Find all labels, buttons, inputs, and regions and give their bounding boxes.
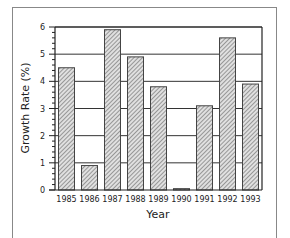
x-tick-label: 1987 (102, 195, 122, 204)
x-tick-label: 1986 (79, 195, 99, 204)
x-tick-label: 1992 (217, 195, 237, 204)
bar-chart: 0123456 19851986198719881989199019911992… (0, 0, 290, 238)
bar-1989 (151, 87, 167, 190)
bar-1991 (197, 106, 213, 190)
y-axis-title: Growth Rate (%) (19, 62, 32, 153)
y-tick-label: 5 (40, 50, 45, 59)
bar-1986 (82, 166, 98, 190)
bar-1992 (220, 38, 236, 190)
y-tick-label: 4 (40, 77, 45, 86)
y-tick-label: 6 (40, 23, 45, 32)
x-tick-label: 1991 (194, 195, 214, 204)
y-tick-label: 1 (40, 159, 45, 168)
bar-1993 (243, 84, 259, 190)
x-tick-label: 1993 (240, 195, 260, 204)
bar-1987 (105, 30, 121, 190)
x-tick-label: 1988 (125, 195, 145, 204)
y-tick-label: 3 (40, 105, 45, 114)
y-axis-ticks: 0123456 (40, 23, 55, 195)
y-tick-label: 2 (40, 132, 45, 141)
bar-1985 (59, 68, 75, 190)
y-tick-label: 0 (40, 186, 45, 195)
x-tick-label: 1985 (56, 195, 76, 204)
x-axis-ticks: 198519861987198819891990199119921993 (56, 195, 260, 204)
bar-1988 (128, 57, 144, 190)
x-axis-title: Year (145, 208, 170, 221)
x-tick-label: 1989 (148, 195, 168, 204)
x-tick-label: 1990 (171, 195, 191, 204)
